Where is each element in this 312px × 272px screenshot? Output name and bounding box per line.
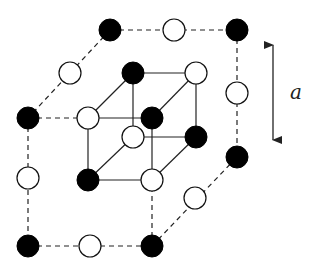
black-atom [226,19,248,41]
black-atom [185,126,207,148]
white-atom [122,126,144,148]
white-atom [185,62,207,84]
white-atom [17,167,39,189]
white-atom [163,19,185,41]
atoms [17,19,248,257]
white-atom [226,82,248,104]
black-atom [99,19,121,41]
black-atom [141,235,163,257]
white-atom [141,169,163,191]
black-atom [77,169,99,191]
white-atom [184,187,206,209]
inner-cube-solid-bonds [88,73,196,180]
black-atom [122,62,144,84]
white-atom [59,62,81,84]
black-atom [17,107,39,129]
lattice-constant-label: a [290,80,302,104]
crystal-lattice-diagram: a [0,0,312,272]
white-atom [79,235,101,257]
black-atom [17,235,39,257]
black-atom [226,146,248,168]
black-atom [141,107,163,129]
white-atom [77,107,99,129]
